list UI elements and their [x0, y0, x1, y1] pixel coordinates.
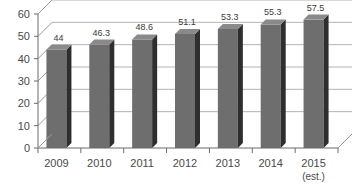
bar-value-label: 46.3: [93, 28, 111, 38]
bar-side-face: [195, 29, 200, 148]
bar-value-label: 55.3: [264, 7, 282, 17]
bar-front-face: [89, 45, 109, 148]
x-category-label: 2012: [173, 157, 197, 169]
x-category-label: 2011: [130, 157, 154, 169]
y-tick-label: 40: [18, 53, 30, 65]
y-tick-label: 0: [24, 142, 30, 154]
bar-value-label: 53.3: [221, 12, 239, 22]
bar-side-face: [238, 24, 243, 148]
y-tick-label: 50: [18, 30, 30, 42]
x-axis-right-depth-line: [338, 134, 352, 148]
x-category-label: 2014: [258, 157, 282, 169]
bar-side-face: [281, 19, 286, 148]
bar-front-face: [261, 24, 281, 148]
y-tick-label: 30: [18, 75, 30, 87]
chart-canvas: 0102030405060 20092010201120122013201420…: [0, 0, 358, 195]
bar-side-face: [109, 40, 114, 148]
bar-front-face: [218, 29, 238, 148]
x-category-label: 2010: [87, 157, 111, 169]
x-category-label: 2015: [301, 157, 325, 169]
x-category-label: 2009: [44, 157, 68, 169]
x-axis-tick-marks: [38, 148, 338, 153]
bars: [46, 15, 328, 148]
bar-value-label: 51.1: [178, 17, 196, 27]
bar-side-face: [324, 15, 329, 148]
bar-value-label: 57.5: [307, 3, 325, 13]
bar-side-face: [152, 34, 157, 148]
y-tick-label: 20: [18, 97, 30, 109]
bar-front-face: [304, 20, 324, 148]
y-tick-label: 60: [18, 8, 30, 20]
y-tick-label: 10: [18, 120, 30, 132]
y-depth-connector: [38, 22, 52, 36]
bar-front-face: [132, 39, 152, 148]
bar-value-label: 44: [53, 33, 63, 43]
bar-front-face: [175, 34, 195, 148]
bar-front-face: [46, 50, 66, 148]
bar-side-face: [66, 45, 71, 148]
y-depth-connector: [38, 0, 52, 14]
y-axis-tick-labels: 0102030405060: [18, 8, 38, 154]
bar-chart: 0102030405060 20092010201120122013201420…: [0, 0, 358, 195]
x-category-label: 2013: [216, 157, 240, 169]
x-category-sublabel: (est.): [302, 171, 325, 182]
x-axis-category-labels: 2009201020112012201320142015(est.): [44, 157, 326, 182]
bar-value-label: 48.6: [135, 22, 153, 32]
